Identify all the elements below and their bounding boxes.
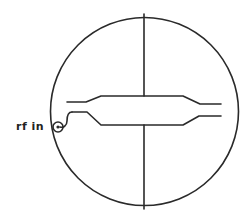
upper-transmission-line: [67, 96, 221, 104]
lower-transmission-line: [72, 112, 221, 125]
rf-input-label: rf in: [16, 120, 44, 133]
rf-input-port-dot: [57, 126, 59, 128]
diagram-canvas: [0, 0, 252, 219]
